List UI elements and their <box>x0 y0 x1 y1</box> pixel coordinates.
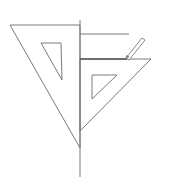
diagram-svg <box>0 0 174 191</box>
set-square-diagram <box>0 0 174 191</box>
right-set-square-outline <box>80 59 151 131</box>
left-set-square-cutout <box>41 43 62 80</box>
right-set-square-cutout <box>92 75 117 99</box>
